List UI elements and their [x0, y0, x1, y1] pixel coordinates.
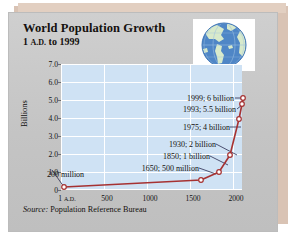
source-note: Source: Population Reference Bureau — [23, 205, 147, 214]
y-tick — [58, 118, 61, 119]
source-text: Population Reference Bureau — [48, 205, 146, 214]
gridline-h — [61, 136, 242, 137]
gridline-v — [104, 64, 105, 190]
x-tick-label: 1 A.D. — [58, 194, 75, 203]
gridline-h — [61, 100, 242, 101]
x-tick-label: 1000 — [142, 194, 157, 203]
gridline-h — [61, 82, 242, 83]
y-axis-title: Billions — [19, 100, 29, 127]
y-tick-label: 2.0 — [49, 150, 59, 159]
gridline-h — [61, 189, 242, 190]
gridline-h — [61, 64, 242, 65]
y-tick — [58, 136, 61, 137]
x-tick-label: 1500 — [185, 194, 200, 203]
x-tick-label-era: A.D. — [64, 196, 76, 202]
gridline-h — [61, 154, 242, 155]
x-tick-label: 2000 — [228, 194, 243, 203]
population-growth-figure: World Population Growth 1 A.D. to 1999 — [0, 0, 299, 239]
gridline-v — [190, 64, 191, 190]
y-tick-label: 5.0 — [49, 96, 59, 105]
y-tick — [58, 172, 61, 173]
gridline-v — [233, 64, 234, 190]
gridline-h — [61, 172, 242, 173]
y-axis: 7.0 6.0 5.0 4.0 3.0 2.0 1.0 0 — [35, 64, 58, 190]
gridline-h — [61, 118, 242, 119]
x-tick-label: 500 — [101, 194, 112, 203]
y-tick — [58, 100, 61, 101]
gridline-v — [61, 64, 62, 190]
subtitle-era: A.D. — [31, 38, 47, 47]
y-tick-label: 1.0 — [49, 168, 59, 177]
subtitle-post: to 1999 — [46, 36, 79, 47]
plot-area — [61, 64, 242, 190]
y-tick — [58, 154, 61, 155]
chart-subtitle: 1 A.D. to 1999 — [23, 36, 79, 47]
y-tick-label: 3.0 — [49, 132, 59, 141]
y-tick-label: 4.0 — [49, 114, 59, 123]
y-tick — [58, 64, 61, 65]
subtitle-pre: 1 — [23, 36, 31, 47]
y-tick-label: 6.0 — [49, 78, 59, 87]
y-tick-label: 7.0 — [49, 60, 59, 69]
chart-title: World Population Growth — [23, 21, 165, 36]
source-label: Source: — [23, 205, 48, 214]
gridline-v — [147, 64, 148, 190]
y-tick — [58, 82, 61, 83]
chart-card: World Population Growth 1 A.D. to 1999 — [8, 12, 278, 232]
